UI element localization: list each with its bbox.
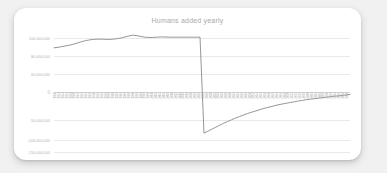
y-axis-label: 60,000,000 [31,72,50,77]
plot-area: 100,000,000 80,000,000 60,000,000 0 -50,… [54,28,350,152]
x-tick-label: 2100 [346,92,349,99]
y-axis-label: 0 [48,90,50,95]
series-line-humans-added [54,28,350,152]
x-axis: 1950195219541956195819601962196419661968… [54,92,350,112]
y-axis-label: -150,000,000 [28,150,50,155]
y-axis-label: 100,000,000 [29,36,50,41]
screenshot-stage: Humans added yearly 100,000,000 80,000,0… [0,0,387,173]
chart-title: Humans added yearly [14,17,361,24]
y-axis-label: -50,000,000 [30,118,50,123]
gridline [54,152,350,153]
chart-card: Humans added yearly 100,000,000 80,000,0… [14,8,361,160]
y-axis-label: 80,000,000 [31,54,50,59]
y-axis-label: -100,000,000 [28,138,50,143]
